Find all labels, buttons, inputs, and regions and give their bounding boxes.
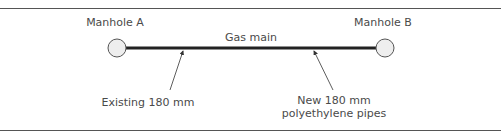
manhole-a-label: Manhole A xyxy=(86,16,144,29)
manhole-a-icon xyxy=(108,39,126,57)
manhole-b-label: Manhole B xyxy=(354,16,412,29)
new-pipe-arrow xyxy=(314,51,333,90)
existing-pipe-arrow xyxy=(170,51,183,90)
existing-pipe-label: Existing 180 mm xyxy=(102,96,195,109)
gas-main-diagram: Manhole A Manhole B Gas main Existing 18… xyxy=(0,0,501,133)
new-pipe-label-line1: New 180 mm xyxy=(297,94,370,107)
manhole-b-icon xyxy=(376,39,394,57)
gas-main-label: Gas main xyxy=(225,31,277,44)
new-pipe-label-line2: polyethylene pipes xyxy=(282,107,387,120)
